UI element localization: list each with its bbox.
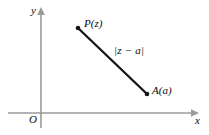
y-axis-arrowhead (37, 7, 45, 15)
point-p (76, 26, 81, 31)
segment-p-to-a (79, 29, 147, 94)
y-axis-label: y (31, 5, 36, 16)
point-p-label: P(z) (84, 18, 102, 29)
point-a-label: A(a) (152, 85, 172, 96)
origin-label: O (29, 114, 37, 125)
complex-plane-diagram: y x O P(z) |z − a| A(a) (0, 0, 209, 135)
point-a (145, 92, 150, 97)
x-axis-label: x (195, 115, 200, 126)
segment-distance-label: |z − a| (114, 45, 144, 56)
